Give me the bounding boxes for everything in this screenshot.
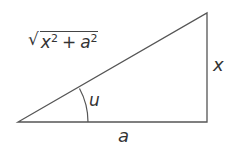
angle-arc xyxy=(80,89,89,123)
radicand: x2+a2 xyxy=(40,31,98,51)
term-x-exponent: 2 xyxy=(51,32,58,45)
triangle-outline xyxy=(18,13,207,122)
angle-label: u xyxy=(89,92,100,109)
plus-operator: + xyxy=(62,32,76,52)
term-x: x xyxy=(41,32,51,52)
opposite-side-label: x xyxy=(213,56,224,74)
radical-sign: √ xyxy=(28,31,39,48)
term-a: a xyxy=(80,32,90,52)
adjacent-side-label: a xyxy=(118,127,129,145)
hypotenuse-label: √ x2+a2 xyxy=(28,31,98,51)
term-a-exponent: 2 xyxy=(91,32,98,45)
